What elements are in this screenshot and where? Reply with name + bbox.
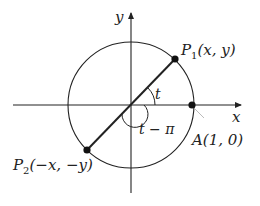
angle-t-label: t (155, 86, 161, 102)
a-label: A(1, 0) (190, 131, 243, 149)
p1-label-coords: (x, y) (197, 41, 235, 59)
unit-circle-diagram: y x P1(x, y) P2(−x, −y) A(1, 0) t t − π (0, 0, 260, 206)
angle-t-minus-pi-label: t − π (139, 121, 175, 137)
p2-label-coords: (−x, −y) (29, 156, 92, 174)
angle-arc-t (148, 88, 155, 105)
p2-label: P2(−x, −y) (12, 156, 93, 176)
diagram-canvas: y x P1(x, y) P2(−x, −y) A(1, 0) t t − π (0, 0, 260, 206)
point-p2 (83, 146, 90, 153)
p1-label: P1(x, y) (180, 41, 236, 61)
x-axis-label: x (232, 108, 241, 126)
point-a (188, 101, 195, 108)
a-leader-line (194, 108, 204, 118)
y-axis-label: y (114, 8, 124, 26)
point-p1 (171, 55, 178, 62)
